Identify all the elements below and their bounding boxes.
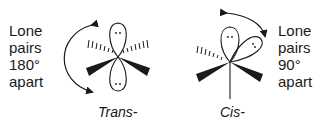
- trans-bottom-lobe-icon: [110, 57, 127, 91]
- trans-wedge-left-icon: [86, 57, 118, 76]
- cis-hashed-bond-icon: [197, 46, 222, 60]
- trans-hashed-bond-left-icon: [88, 40, 113, 53]
- trans-wedge-right-icon: [118, 57, 150, 76]
- trans-arrow-arc-icon: [64, 25, 92, 92]
- cis-arrow-arc-icon: [226, 13, 265, 36]
- cis-molecule: [196, 13, 265, 99]
- cis-wedge-left-icon: [196, 62, 230, 82]
- trans-molecule: [64, 23, 150, 92]
- cis-vertical-lobe-icon: [221, 27, 239, 62]
- cis-wedge-right-icon: [230, 62, 263, 82]
- diagram-canvas: [0, 0, 331, 126]
- trans-hashed-bond-right-icon: [123, 40, 148, 53]
- cis-tilted-lobe-icon: [230, 37, 262, 62]
